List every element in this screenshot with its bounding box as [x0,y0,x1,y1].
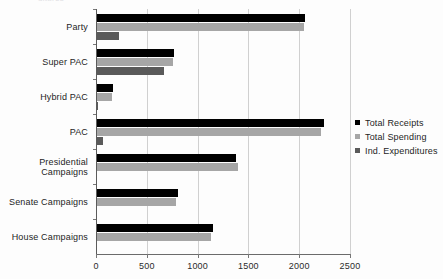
y-axis-tick [93,9,96,10]
category-label: Presidential Campaigns [0,157,88,177]
x-axis-tick-label: 2500 [340,261,361,271]
x-axis-tick-label: 1500 [238,261,259,271]
legend-swatch-icon [355,134,360,139]
chart-screenshot: ditures PartySuper PACHybrid PACPACPresi… [0,0,443,279]
bar [97,49,174,57]
bar [97,189,178,197]
y-axis-tick [93,149,96,150]
x-axis-tick-label: 500 [139,261,155,271]
bar [97,84,113,92]
legend-item: Total Receipts [355,116,438,129]
bar [97,154,236,162]
bar [97,58,173,66]
x-axis-tick [299,254,300,258]
bar [97,163,238,171]
y-axis-tick [93,114,96,115]
x-axis-tick [198,254,199,258]
y-axis-tick [93,219,96,220]
category-label: Party [0,22,88,32]
bar [97,119,324,127]
x-axis-tick-label: 0 [93,261,98,271]
legend-label: Total Receipts [365,118,424,128]
x-axis-tick-label: 2000 [289,261,310,271]
bar [97,23,304,31]
bar [97,102,98,110]
x-axis-tick [350,254,351,258]
chart-legend: Total ReceiptsTotal SpendingInd. Expendi… [355,116,438,158]
bar [97,128,321,136]
bar [97,14,305,22]
bar [97,32,119,40]
x-axis-tick [248,254,249,258]
y-axis-tick [93,44,96,45]
bar [97,93,112,101]
plot-area: 05001000150020002500 [96,9,350,254]
category-label: PAC [0,127,88,137]
legend-label: Ind. Expenditures [365,146,438,156]
cropped-title-remnant: ditures [38,0,64,3]
legend-swatch-icon [355,148,360,153]
bar [97,137,103,145]
category-label: Hybrid PAC [0,92,88,102]
legend-swatch-icon [355,120,360,125]
bar [97,67,164,75]
bar [97,233,211,241]
category-axis-labels: PartySuper PACHybrid PACPACPresidential … [0,9,92,254]
x-axis-tick [147,254,148,258]
category-label: House Campaigns [0,232,88,242]
legend-item: Ind. Expenditures [355,144,438,157]
category-label: Super PAC [0,57,88,67]
bar [97,198,176,206]
x-axis-tick-label: 1000 [187,261,208,271]
category-label: Senate Campaigns [0,197,88,207]
bar [97,224,213,232]
y-axis-tick [93,184,96,185]
legend-item: Total Spending [355,130,438,143]
x-axis-line [96,254,350,255]
y-axis-tick [93,79,96,80]
x-axis-tick [96,254,97,258]
legend-label: Total Spending [365,132,427,142]
gridline [350,9,351,254]
